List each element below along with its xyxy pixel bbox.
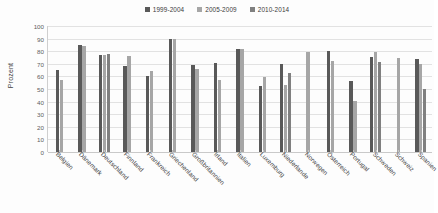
- y-axis-tick-label: 90: [37, 35, 44, 42]
- x-axis-label-slot: Irland: [206, 153, 229, 211]
- bar[interactable]: [103, 55, 106, 152]
- bar[interactable]: [169, 39, 172, 152]
- bar-group: [387, 26, 410, 152]
- bar[interactable]: [419, 64, 422, 152]
- x-axis-label-slot: Italien: [229, 153, 252, 211]
- bar[interactable]: [288, 73, 291, 152]
- chart-legend: 1999-20042005-20092010-2014: [0, 6, 434, 13]
- x-axis-label-slot: Deutschland: [93, 153, 116, 211]
- bar[interactable]: [284, 85, 287, 152]
- bar[interactable]: [146, 76, 149, 152]
- x-axis-label-slot: Großbritannien: [184, 153, 207, 211]
- bar[interactable]: [195, 69, 198, 152]
- bar-group: [342, 26, 365, 152]
- bar-group: [71, 26, 94, 152]
- bar[interactable]: [378, 62, 381, 152]
- legend-item-label: 2005-2009: [205, 6, 236, 13]
- legend-item-label: 2010-2014: [258, 6, 289, 13]
- x-axis-label-slot: Belgien: [48, 153, 71, 211]
- bar[interactable]: [415, 59, 418, 152]
- bar[interactable]: [331, 61, 334, 152]
- y-axis-tick-label: 70: [37, 60, 44, 67]
- x-axis-label-slot: Spanien: [410, 153, 433, 211]
- bar[interactable]: [173, 39, 176, 152]
- x-axis-label-slot: Norwegen: [297, 153, 320, 211]
- bar[interactable]: [349, 81, 352, 152]
- bar-group: [251, 26, 274, 152]
- bar[interactable]: [423, 89, 426, 152]
- bars-layer: [48, 26, 432, 152]
- legend-item-label: 1999-2004: [153, 6, 184, 13]
- x-axis-label-slot: Österreich: [319, 153, 342, 211]
- bar-group: [297, 26, 320, 152]
- y-axis-tick-label: 20: [37, 123, 44, 130]
- bar[interactable]: [150, 71, 153, 152]
- x-axis-label-slot: Luxemburg: [251, 153, 274, 211]
- y-axis-tick-label: 40: [37, 98, 44, 105]
- y-axis-tick-label: 10: [37, 136, 44, 143]
- x-axis-label-slot: Dänemark: [71, 153, 94, 211]
- bar-group: [184, 26, 207, 152]
- bar[interactable]: [370, 57, 373, 152]
- bar-group: [48, 26, 71, 152]
- legend-swatch-icon: [197, 7, 202, 12]
- bar[interactable]: [306, 52, 309, 152]
- bar[interactable]: [191, 65, 194, 152]
- bar[interactable]: [353, 101, 356, 152]
- bar[interactable]: [259, 86, 262, 152]
- bar[interactable]: [56, 70, 59, 152]
- x-axis-label-slot: Niederlande: [274, 153, 297, 211]
- bar-group: [116, 26, 139, 152]
- bar[interactable]: [236, 49, 239, 152]
- bar[interactable]: [218, 80, 221, 152]
- y-axis-tick-label: 100: [34, 23, 44, 30]
- x-axis-label-slot: Schweiz: [387, 153, 410, 211]
- bar[interactable]: [374, 52, 377, 152]
- bar-group: [161, 26, 184, 152]
- x-axis-label: Irland: [213, 150, 230, 167]
- y-axis-tick-label: 0: [41, 149, 44, 156]
- bar[interactable]: [263, 77, 266, 152]
- x-axis-label: Spanien: [417, 150, 438, 172]
- y-axis-tick-label: 80: [37, 48, 44, 55]
- bar[interactable]: [240, 49, 243, 152]
- bar-group: [319, 26, 342, 152]
- bar-group: [410, 26, 433, 152]
- x-axis-label-slot: Frankreich: [138, 153, 161, 211]
- x-axis-label-slot: Schweden: [364, 153, 387, 211]
- legend-item[interactable]: 2010-2014: [250, 6, 289, 13]
- y-axis-tick-label: 60: [37, 73, 44, 80]
- bar-group: [364, 26, 387, 152]
- plot-area: Prozent 1009080706050403020100: [0, 26, 434, 158]
- y-axis-ticks: 1009080706050403020100: [22, 26, 46, 152]
- bar[interactable]: [214, 63, 217, 152]
- y-axis-title: Prozent: [7, 49, 14, 103]
- legend-item[interactable]: 1999-2004: [145, 6, 184, 13]
- bar[interactable]: [280, 64, 283, 152]
- bar[interactable]: [397, 58, 400, 153]
- legend-swatch-icon: [145, 7, 150, 12]
- legend-item[interactable]: 2005-2009: [197, 6, 236, 13]
- bar[interactable]: [82, 46, 85, 152]
- bar[interactable]: [107, 54, 110, 152]
- legend-swatch-icon: [250, 7, 255, 12]
- x-axis-label-slot: Portugal: [342, 153, 365, 211]
- bar[interactable]: [60, 80, 63, 152]
- bar-group: [274, 26, 297, 152]
- bar-group: [229, 26, 252, 152]
- x-axis-label-slot: Finnland: [116, 153, 139, 211]
- bar-group: [206, 26, 229, 152]
- bar-group: [138, 26, 161, 152]
- bar[interactable]: [99, 55, 102, 152]
- y-axis-tick-label: 50: [37, 86, 44, 93]
- x-axis-labels: BelgienDänemarkDeutschlandFinnlandFrankr…: [48, 153, 432, 211]
- bar-group: [93, 26, 116, 152]
- y-axis-tick-label: 30: [37, 111, 44, 118]
- bar[interactable]: [78, 45, 81, 152]
- bar[interactable]: [127, 56, 130, 152]
- bar[interactable]: [123, 66, 126, 152]
- bar[interactable]: [327, 51, 330, 152]
- x-axis-label-slot: Griechenland: [161, 153, 184, 211]
